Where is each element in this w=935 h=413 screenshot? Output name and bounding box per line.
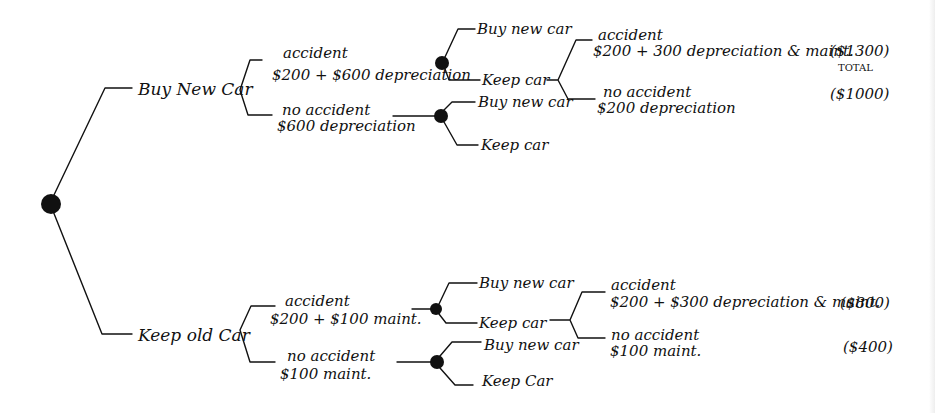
- outcome-accident-label: accident: [283, 44, 349, 62]
- edge-top-acc-buy: [445, 29, 475, 57]
- choice-buy-new-car: Buy new car: [477, 93, 573, 111]
- choice-buy-new-car: Buy new car: [476, 20, 572, 38]
- outcome-no-accident-cost: $200 depreciation: [597, 99, 736, 117]
- outcome-accident-label: accident: [611, 276, 677, 294]
- decision-node-top-no-accident: [434, 109, 448, 123]
- total-top-keep-no-accident: ($1000): [830, 85, 890, 103]
- outcome-accident-cost: $200 + $100 maint.: [270, 310, 422, 328]
- choice-keep-car: Keep car: [480, 136, 549, 154]
- total-bottom-keep-accident: ($800): [840, 294, 890, 312]
- outcome-no-accident-cost: $100 maint.: [610, 342, 701, 360]
- option-keep-old-car: Keep old Car: [137, 325, 251, 345]
- total-bottom-keep-no-accident: ($400): [843, 338, 893, 356]
- choice-keep-car: Keep Car: [481, 372, 553, 390]
- edge-bot-acc-buy: [439, 283, 477, 304]
- edge-bot-noacc-buy: [440, 342, 481, 356]
- outcome-no-accident-cost: $100 maint.: [280, 365, 371, 383]
- edge-top-noacc-buy: [444, 102, 475, 110]
- outcome-accident-cost: $200 + 300 depreciation & maint.: [593, 42, 854, 60]
- decision-node-bottom-accident: [430, 303, 442, 315]
- bracket-top-keep-car: [547, 40, 595, 99]
- total-note: TOTAL: [838, 62, 873, 73]
- bracket-bottom-keep-car: [550, 292, 605, 338]
- root-decision-node: [41, 194, 61, 214]
- decision-node-bottom-no-accident: [430, 355, 444, 369]
- total-top-keep-accident: ($1300): [830, 42, 890, 60]
- decision-tree-diagram: Buy New Car accident $200 + $600 depreci…: [0, 0, 935, 413]
- choice-keep-car: Keep car: [478, 314, 547, 332]
- edge-root-to-buy: [53, 88, 132, 197]
- choice-keep-car: Keep car: [481, 71, 550, 89]
- paper-edge-shadow: [929, 0, 935, 413]
- edge-bot-acc-keep: [439, 314, 477, 323]
- outcome-no-accident-cost: $600 depreciation: [277, 117, 416, 135]
- edge-top-noacc-keep: [444, 122, 478, 145]
- decision-node-top-accident: [435, 56, 449, 70]
- option-buy-new-car: Buy New Car: [137, 79, 253, 99]
- outcome-no-accident-label: no accident: [287, 347, 376, 365]
- choice-buy-new-car: Buy new car: [478, 274, 574, 292]
- choice-buy-new-car: Buy new car: [483, 336, 579, 354]
- outcome-accident-label: accident: [285, 292, 351, 310]
- edge-bot-noacc-keep: [440, 368, 473, 385]
- edge-root-to-keep: [53, 211, 132, 334]
